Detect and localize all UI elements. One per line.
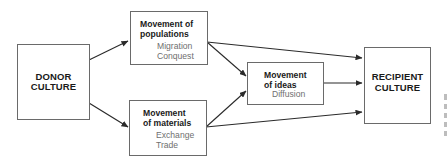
movement-of-ideas-node: Movement of ideas Diffusion <box>247 62 324 105</box>
materials-title-line1: Movement <box>143 108 191 118</box>
populations-item: Conquest <box>157 51 194 61</box>
clipped-text-fragment <box>444 131 447 136</box>
materials-item: Trade <box>156 140 194 150</box>
ideas-title-line1: Movement <box>264 70 307 80</box>
arrow-donor-to-materials <box>89 103 128 127</box>
arrow-donor-to-populations <box>89 41 128 60</box>
arrow-materials-to-recipient <box>206 112 362 127</box>
populations-title-line2: populations <box>140 29 193 39</box>
movement-of-materials-node: Movement of materials Exchange Trade <box>129 100 207 156</box>
clipped-text-fragment <box>444 122 447 127</box>
arrow-populations-to-recipient <box>207 42 362 58</box>
arrow-populations-to-ideas <box>207 42 246 76</box>
clipped-text-fragment <box>444 94 447 100</box>
recipient-label-line1: RECIPIENT <box>372 72 424 83</box>
populations-item: Migration <box>157 41 194 51</box>
recipient-label-line2: CULTURE <box>372 83 424 94</box>
movement-of-populations-node: Movement of populations Migration Conque… <box>130 11 208 65</box>
clipped-text-fragment <box>444 113 447 118</box>
arrow-materials-to-ideas <box>206 91 246 127</box>
clipped-text-fragment <box>444 104 447 109</box>
materials-title-line2: of materials <box>143 118 191 128</box>
ideas-item: Diffusion <box>272 89 305 99</box>
donor-label-line2: CULTURE <box>31 82 76 93</box>
materials-item: Exchange <box>156 130 194 140</box>
populations-title-line1: Movement of <box>140 19 193 29</box>
recipient-culture-node: RECIPIENT CULTURE <box>364 47 431 124</box>
donor-culture-node: DONOR CULTURE <box>17 44 90 120</box>
